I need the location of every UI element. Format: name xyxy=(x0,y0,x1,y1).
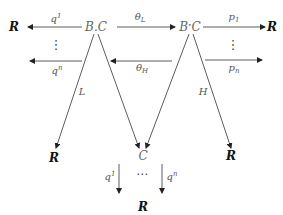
label-qn-left-sup: n xyxy=(58,64,63,72)
label-p1: p1 xyxy=(229,12,240,24)
arrow-bprime-c-to-c xyxy=(146,34,189,148)
label-theta-l-sub: L xyxy=(141,16,146,24)
label-pn: pn xyxy=(229,63,240,75)
label-q1-bottom-sup: 1 xyxy=(111,170,115,178)
node-c-right: C xyxy=(192,20,201,34)
label-theta-l: θL xyxy=(135,12,146,24)
label-q1-top: q1 xyxy=(51,13,62,24)
label-theta-h-sub: H xyxy=(142,67,148,75)
node-r-mid-left: R xyxy=(49,152,59,164)
label-q1-bottom: q1 xyxy=(105,171,116,182)
node-c-left: C xyxy=(98,20,107,34)
label-l-diag: L xyxy=(79,87,86,97)
vdots-right: ⋮ xyxy=(227,38,240,51)
node-r-top-left: R xyxy=(9,21,19,33)
vdots-left: ⋮ xyxy=(50,38,63,51)
label-qn-bottom-sup: n xyxy=(173,170,178,178)
diagram-arrows xyxy=(0,0,283,215)
label-h-diag: H xyxy=(199,87,208,97)
node-c-center: C xyxy=(138,150,147,162)
node-r-bottom: R xyxy=(138,201,148,213)
node-b-dot-c-left: B.C xyxy=(85,21,107,33)
label-pn-sub: n xyxy=(235,67,240,75)
label-qn-bottom: qn xyxy=(167,171,178,182)
node-r-top-right: R xyxy=(267,21,277,33)
hdots-bottom: ⋯ xyxy=(136,168,148,180)
label-qn-left: qn xyxy=(52,65,63,76)
label-q1-top-sup: 1 xyxy=(57,12,61,20)
node-r-mid-right: R xyxy=(226,150,236,162)
node-b-right: B xyxy=(179,20,188,34)
arrow-bc-to-c xyxy=(98,34,139,148)
node-b-dot-c-right: B•C xyxy=(179,21,201,33)
label-p1-sub: 1 xyxy=(235,16,239,24)
label-theta-h: θH xyxy=(136,63,148,75)
node-b-left: B xyxy=(85,20,94,34)
